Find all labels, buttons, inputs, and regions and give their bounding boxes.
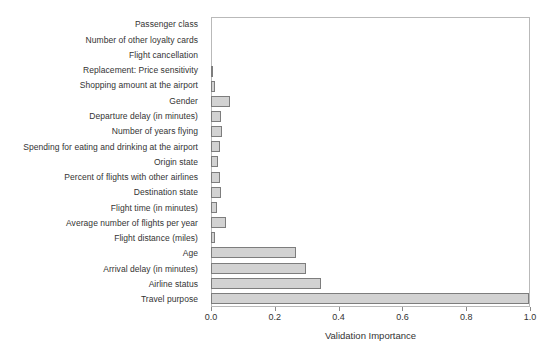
bar-row xyxy=(212,94,529,109)
bar-row xyxy=(212,245,529,260)
bar-row xyxy=(212,124,529,139)
bar-row xyxy=(212,170,529,185)
x-axis-tick-label: 1.0 xyxy=(524,312,537,322)
bar-series xyxy=(212,18,529,306)
x-axis-tick-label: 0.2 xyxy=(269,312,282,322)
bar-row xyxy=(212,154,529,169)
x-axis-tick-label: 0.6 xyxy=(396,312,409,322)
category-axis-labels: Passenger classNumber of other loyalty c… xyxy=(0,17,203,307)
bar-row xyxy=(212,230,529,245)
bar-row xyxy=(212,109,529,124)
bar-row xyxy=(212,291,529,306)
bar xyxy=(211,247,296,258)
category-label: Flight time (in minutes) xyxy=(0,200,203,215)
bar-row xyxy=(212,18,529,33)
bar xyxy=(211,232,215,243)
x-axis-tick xyxy=(275,307,276,311)
bar xyxy=(211,141,220,152)
bar xyxy=(211,156,218,167)
bar-row xyxy=(212,139,529,154)
bar-row xyxy=(212,200,529,215)
bar-row xyxy=(212,48,529,63)
bar xyxy=(211,111,221,122)
category-label: Shopping amount at the airport xyxy=(0,78,203,93)
category-label: Gender xyxy=(0,93,203,108)
category-label: Average number of flights per year xyxy=(0,215,203,230)
category-label: Flight cancellation xyxy=(0,48,203,63)
category-label: Replacement: Price sensitivity xyxy=(0,63,203,78)
category-label: Passenger class xyxy=(0,17,203,32)
plot-area xyxy=(211,17,530,307)
bar xyxy=(211,278,321,289)
bar xyxy=(211,81,215,92)
x-axis-tick xyxy=(339,307,340,311)
bar xyxy=(211,217,226,228)
bar-row xyxy=(212,215,529,230)
category-label: Airline status xyxy=(0,277,203,292)
bar-row xyxy=(212,63,529,78)
bar-row xyxy=(212,33,529,48)
category-label: Percent of flights with other airlines xyxy=(0,170,203,185)
x-axis-tick xyxy=(530,307,531,311)
bar xyxy=(211,263,306,274)
bar xyxy=(211,96,230,107)
category-label: Travel purpose xyxy=(0,292,203,307)
category-label: Arrival delay (in minutes) xyxy=(0,261,203,276)
bar xyxy=(211,126,222,137)
x-axis-tick xyxy=(402,307,403,311)
x-axis-tick-label: 0.8 xyxy=(460,312,473,322)
category-label: Origin state xyxy=(0,154,203,169)
category-label: Number of years flying xyxy=(0,124,203,139)
category-label: Spending for eating and drinking at the … xyxy=(0,139,203,154)
category-label: Flight distance (miles) xyxy=(0,231,203,246)
category-label: Number of other loyalty cards xyxy=(0,32,203,47)
bar xyxy=(211,202,217,213)
x-axis-tick-label: 0.4 xyxy=(332,312,345,322)
bar-row xyxy=(212,261,529,276)
category-label: Destination state xyxy=(0,185,203,200)
x-axis-title: Validation Importance xyxy=(211,330,530,341)
bar-row xyxy=(212,185,529,200)
bar xyxy=(211,187,221,198)
x-axis-tick xyxy=(466,307,467,311)
bar-row xyxy=(212,276,529,291)
bar-chart-figure: Passenger classNumber of other loyalty c… xyxy=(0,0,554,357)
category-label: Age xyxy=(0,246,203,261)
x-axis-tick xyxy=(211,307,212,311)
x-axis-tick-label: 0.0 xyxy=(205,312,218,322)
bar xyxy=(211,293,529,304)
bar xyxy=(211,66,213,77)
category-label: Departure delay (in minutes) xyxy=(0,109,203,124)
bar-row xyxy=(212,79,529,94)
bar xyxy=(211,172,220,183)
